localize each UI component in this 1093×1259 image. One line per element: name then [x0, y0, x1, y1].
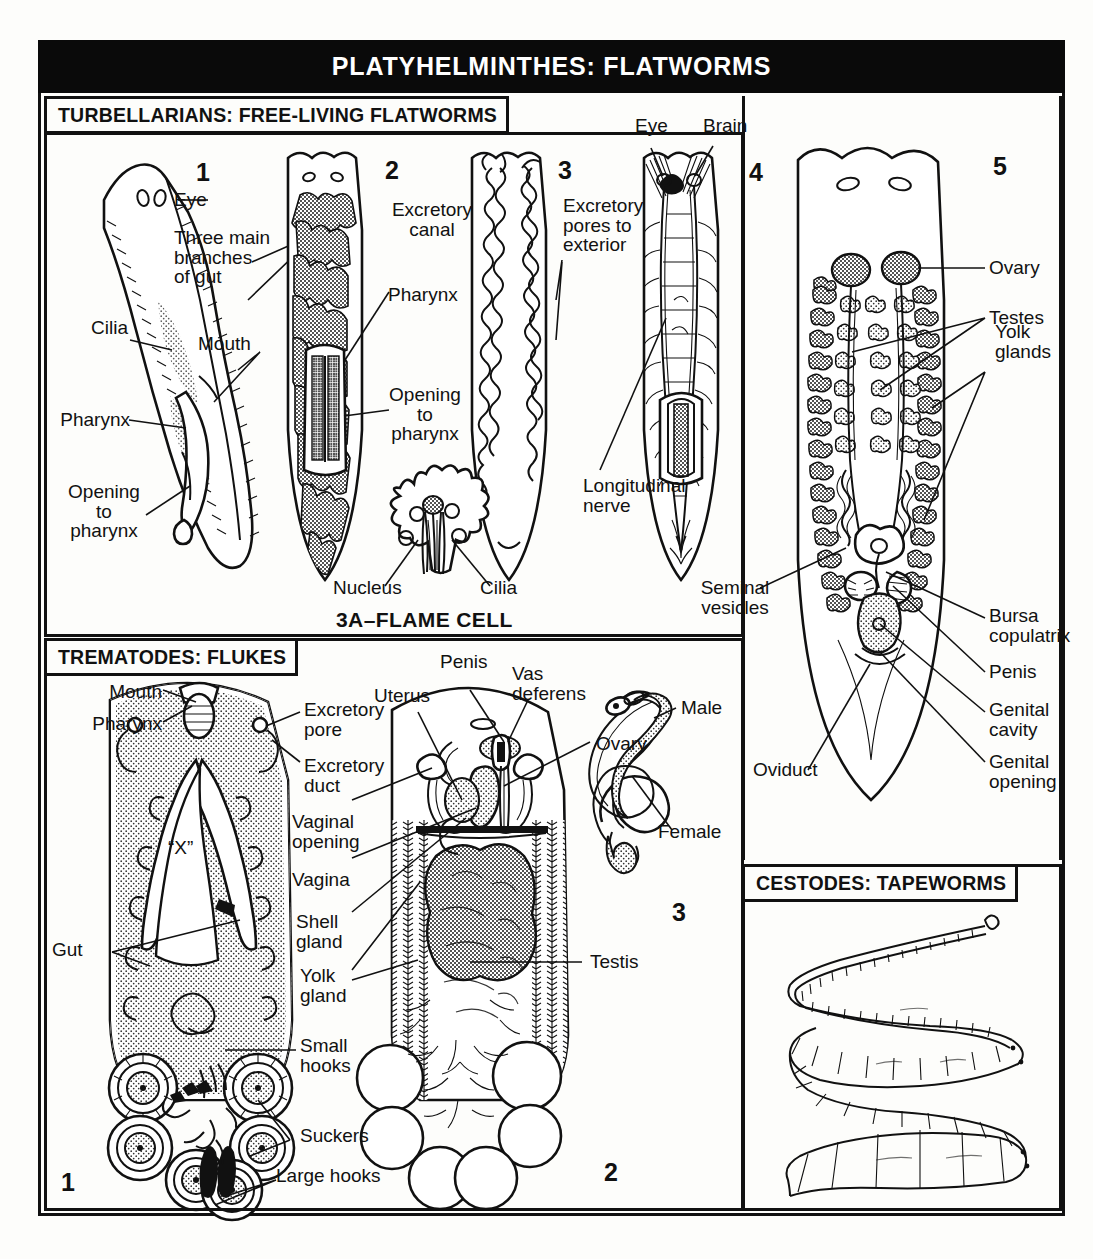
- section-header-trematodes-label: TREMATODES: FLUKES: [58, 646, 286, 669]
- label-longitudinal-nerve: Longitudinal nerve: [583, 476, 685, 515]
- label-mouth-fig1: Mouth: [198, 334, 251, 354]
- label-excretory-pore: Excretory pore: [304, 700, 384, 739]
- label-cilia-fig1: Cilia: [56, 318, 128, 338]
- section-header-trematodes: TREMATODES: FLUKES: [44, 638, 298, 676]
- label-brain-fig4: Brain: [703, 116, 747, 136]
- label-uterus: Uterus: [374, 686, 430, 706]
- label-vagina: Vagina: [292, 870, 350, 890]
- panel-cestodes: [742, 864, 1062, 1211]
- fig-number-turb-4: 4: [749, 158, 763, 187]
- label-eye-fig1: Eye: [174, 190, 207, 210]
- label-cilia-flame-cell: Cilia: [480, 578, 517, 598]
- section-header-cestodes-label: CESTODES: TAPEWORMS: [756, 872, 1006, 895]
- fig-number-turb-1: 1: [196, 158, 210, 187]
- label-genital-opening: Genital opening: [989, 752, 1057, 791]
- label-male: Male: [681, 698, 722, 718]
- label-female: Female: [658, 822, 721, 842]
- label-pharynx-fig2: Pharynx: [388, 285, 458, 305]
- label-penis-fig5: Penis: [989, 662, 1037, 682]
- label-large-hooks: Large hooks: [276, 1166, 381, 1186]
- label-opening-to-pharynx-fig1: Opening to pharynx: [58, 482, 150, 541]
- label-mouth-trem1: Mouth: [52, 682, 162, 702]
- label-suckers: Suckers: [300, 1126, 369, 1146]
- label-excretory-duct: Excretory duct: [304, 756, 384, 795]
- fig-number-turb-3: 3: [558, 156, 572, 185]
- label-nucleus: Nucleus: [333, 578, 402, 598]
- label-excretory-pores-to-exterior: Excretory pores to exterior: [563, 196, 643, 255]
- label-x-mark: “X”: [168, 838, 193, 858]
- label-gut-trem1: Gut: [52, 940, 83, 960]
- label-bursa-copulatrix: Bursa copulatrix: [989, 606, 1070, 645]
- plate-title-banner: PLATYHELMINTHES: FLATWORMS: [38, 40, 1065, 93]
- label-seminal-vesicles: Seminal vesicles: [688, 578, 782, 617]
- label-opening-to-pharynx-fig2: Opening to pharynx: [378, 385, 472, 444]
- section-header-turbellarians-label: TURBELLARIANS: FREE-LIVING FLATWORMS: [58, 104, 497, 127]
- label-oviduct: Oviduct: [753, 760, 817, 780]
- label-ovary-fig5: Ovary: [989, 258, 1040, 278]
- label-vaginal-opening: Vaginal opening: [292, 812, 360, 851]
- fig-number-trem-3: 3: [672, 898, 686, 927]
- label-yolk-gland: Yolk gland: [300, 966, 347, 1005]
- fig-number-trem-2: 2: [604, 1158, 618, 1187]
- flame-cell-caption: 3A–FLAME CELL: [336, 608, 513, 632]
- section-header-cestodes: CESTODES: TAPEWORMS: [742, 864, 1018, 902]
- label-excretory-canal: Excretory canal: [382, 200, 482, 239]
- label-testis: Testis: [590, 952, 639, 972]
- section-header-turbellarians: TURBELLARIANS: FREE-LIVING FLATWORMS: [44, 96, 509, 134]
- label-yolk-glands-fig5: Yolk glands: [995, 322, 1051, 361]
- label-shell-gland: Shell gland: [296, 912, 343, 951]
- label-three-main-branches-of-gut: Three main branches of gut: [174, 228, 270, 287]
- label-vas-deferens: Vas deferens: [512, 664, 586, 703]
- panel-right-divider: [742, 96, 1062, 860]
- label-eye-fig4: Eye: [635, 116, 668, 136]
- plate-title: PLATYHELMINTHES: FLATWORMS: [332, 52, 771, 81]
- label-ovary-trem2: Ovary: [596, 734, 647, 754]
- fig-number-trem-1: 1: [61, 1168, 75, 1197]
- label-penis-trem2: Penis: [440, 652, 488, 672]
- label-pharynx-trem1: Pharynx: [42, 714, 162, 734]
- fig-number-turb-5: 5: [993, 152, 1007, 181]
- label-small-hooks: Small hooks: [300, 1036, 351, 1075]
- label-genital-cavity: Genital cavity: [989, 700, 1049, 739]
- plate-page: PLATYHELMINTHES: FLATWORMS TURBELLARIANS…: [0, 0, 1093, 1259]
- label-pharynx-fig1: Pharynx: [50, 410, 130, 430]
- fig-number-turb-2: 2: [385, 156, 399, 185]
